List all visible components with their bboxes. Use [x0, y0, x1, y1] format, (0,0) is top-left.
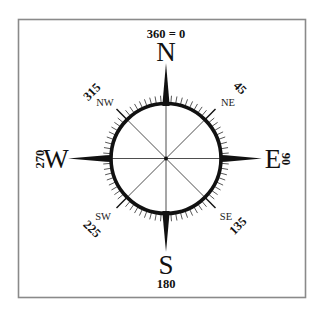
minor-tick: [105, 173, 112, 175]
minor-tick: [176, 96, 177, 103]
minor-tick: [180, 213, 182, 220]
minor-tick: [150, 98, 152, 105]
minor-tick: [185, 99, 187, 106]
minor-tick: [171, 214, 172, 221]
minor-tick: [144, 99, 146, 106]
minor-tick: [221, 148, 228, 149]
minor-tick: [155, 214, 156, 221]
minor-tick: [126, 110, 131, 115]
major-tick: [206, 198, 216, 208]
south-degree-label: 180: [157, 277, 176, 291]
minor-tick: [202, 201, 207, 206]
center-hub: [164, 157, 168, 161]
minor-tick: [176, 214, 177, 221]
minor-tick: [212, 122, 218, 126]
northeast-degree-label: 45: [231, 79, 250, 98]
minor-tick: [161, 96, 162, 103]
northwest-label: NW: [96, 97, 114, 108]
east-degree-label: 90: [279, 153, 293, 166]
minor-tick: [111, 127, 117, 131]
minor-tick: [209, 118, 214, 123]
minor-tick: [161, 214, 162, 221]
minor-tick: [130, 107, 134, 113]
southwest-label: SW: [95, 211, 111, 222]
minor-tick: [198, 204, 202, 210]
minor-tick: [105, 142, 112, 144]
minor-tick: [220, 142, 227, 144]
minor-tick: [118, 118, 123, 123]
west-label: W: [43, 144, 69, 174]
minor-tick: [111, 187, 117, 191]
minor-tick: [109, 132, 115, 135]
south-point-icon: [162, 211, 169, 252]
major-tick: [117, 198, 127, 208]
minor-tick: [219, 137, 226, 139]
minor-tick: [198, 107, 202, 113]
major-tick: [117, 109, 127, 119]
north-point-icon: [162, 63, 169, 106]
minor-tick: [221, 168, 228, 169]
minor-tick: [219, 178, 226, 180]
minor-tick: [107, 178, 114, 180]
east-point-icon: [220, 155, 262, 162]
minor-tick: [194, 104, 198, 110]
minor-tick: [212, 191, 218, 195]
minor-tick: [222, 163, 229, 164]
minor-tick: [103, 163, 110, 164]
minor-tick: [139, 101, 142, 107]
southeast-label: SE: [220, 211, 232, 222]
minor-tick: [144, 211, 146, 218]
minor-tick: [215, 127, 221, 131]
minor-tick: [222, 153, 229, 154]
north-label: N: [156, 37, 176, 67]
minor-tick: [107, 137, 114, 139]
west-degree-label: 270: [33, 150, 47, 169]
minor-tick: [150, 213, 152, 220]
compass-diagram: 360 = 0 N S W E 180 270 90 NW NE SW SE 3…: [0, 0, 322, 314]
south-label: S: [158, 250, 173, 280]
west-point-icon: [68, 155, 112, 162]
minor-tick: [190, 209, 193, 215]
east-label: E: [265, 144, 282, 174]
minor-tick: [126, 201, 131, 206]
minor-tick: [209, 195, 214, 200]
minor-tick: [135, 104, 139, 110]
minor-tick: [104, 148, 111, 149]
minor-tick: [114, 122, 120, 126]
minor-tick: [109, 182, 115, 185]
minor-tick: [190, 101, 193, 107]
minor-tick: [217, 182, 223, 185]
minor-tick: [185, 211, 187, 218]
major-tick: [206, 109, 216, 119]
minor-tick: [104, 168, 111, 169]
minor-tick: [155, 96, 156, 103]
minor-tick: [220, 173, 227, 175]
minor-tick: [180, 98, 182, 105]
minor-tick: [139, 209, 142, 215]
minor-tick: [135, 207, 139, 213]
minor-tick: [215, 187, 221, 191]
minor-tick: [171, 96, 172, 103]
northeast-label: NE: [221, 97, 235, 108]
minor-tick: [118, 195, 123, 200]
minor-tick: [194, 207, 198, 213]
minor-tick: [114, 191, 120, 195]
minor-tick: [130, 204, 134, 210]
minor-tick: [217, 132, 223, 135]
minor-tick: [103, 153, 110, 154]
minor-tick: [202, 110, 207, 115]
